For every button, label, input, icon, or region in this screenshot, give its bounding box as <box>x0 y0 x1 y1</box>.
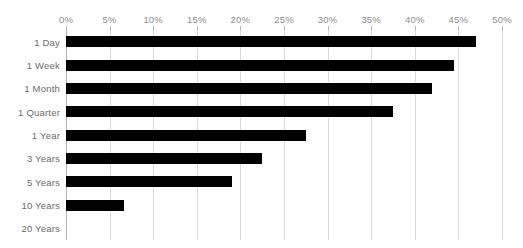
y-axis-category-label: 1 Day <box>34 36 60 47</box>
bar <box>66 130 306 141</box>
y-axis-category-label: 5 Years <box>27 176 60 187</box>
bar <box>66 106 393 117</box>
x-axis-tick-label: 50% <box>492 14 512 25</box>
x-axis-tick-label: 10% <box>143 14 163 25</box>
x-axis-tick-label: 0% <box>59 14 73 25</box>
x-axis-tick-label: 20% <box>231 14 251 25</box>
x-axis-tick-label: 5% <box>103 14 117 25</box>
y-axis-category-label: 20 Years <box>21 223 60 234</box>
bar <box>66 153 262 164</box>
x-axis-tick-label: 45% <box>449 14 469 25</box>
gridline <box>502 30 503 240</box>
gridline <box>458 30 459 240</box>
y-axis-category-label: 1 Month <box>24 83 60 94</box>
x-axis-tick-label: 30% <box>318 14 338 25</box>
bar <box>66 200 124 211</box>
y-axis-category-labels: 1 Day1 Week1 Month1 Quarter1 Year3 Years… <box>0 30 60 240</box>
y-axis-category-label: 3 Years <box>27 153 60 164</box>
bar <box>66 83 432 94</box>
x-axis-tick-label: 35% <box>361 14 381 25</box>
x-axis-tick-labels: 0%5%10%15%20%25%30%35%40%45%50% <box>0 14 523 28</box>
bar <box>66 176 232 187</box>
bar-chart: 0%5%10%15%20%25%30%35%40%45%50% 1 Day1 W… <box>0 0 523 248</box>
plot-area <box>66 30 502 240</box>
x-axis-tick-label: 40% <box>405 14 425 25</box>
y-axis-category-label: 1 Quarter <box>18 106 60 117</box>
bar <box>66 60 454 71</box>
y-axis-category-label: 1 Year <box>32 130 60 141</box>
y-axis-category-label: 10 Years <box>21 200 60 211</box>
bar <box>66 36 476 47</box>
y-axis-category-label: 1 Week <box>27 60 60 71</box>
x-axis-tick-label: 15% <box>187 14 207 25</box>
x-axis-tick-label: 25% <box>274 14 294 25</box>
